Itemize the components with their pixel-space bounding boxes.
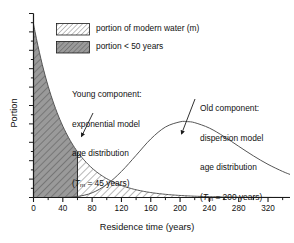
x-tick-label: 320 bbox=[254, 204, 282, 214]
x-tick-label: 160 bbox=[137, 204, 165, 214]
old-component-annotation: Old component: dispersion model age dist… bbox=[200, 84, 263, 223]
young-anno-line-3: age distribution bbox=[72, 149, 142, 159]
chart-figure: Portion Residence time (years) portion o… bbox=[0, 0, 294, 243]
old-anno-value: = 200 years) bbox=[213, 192, 262, 202]
young-anno-line-2: exponential model bbox=[72, 120, 142, 130]
x-axis-title: Residence time (years) bbox=[0, 222, 294, 233]
young-anno-line-4: (Tm = 45 years) bbox=[72, 179, 142, 189]
x-tick-label: 120 bbox=[107, 204, 135, 214]
x-tick-label: 200 bbox=[166, 204, 194, 214]
x-tick-label: 40 bbox=[49, 204, 77, 214]
legend-swatches bbox=[57, 24, 90, 54]
young-component-annotation: Young component: exponential model age d… bbox=[72, 70, 142, 209]
y-axis-title: Portion bbox=[9, 83, 19, 143]
legend-swatch-under50 bbox=[57, 42, 90, 54]
legend-label-under50: portion < 50 years bbox=[96, 42, 163, 52]
old-anno-line-1: Old component: bbox=[200, 104, 263, 114]
old-anno-line-2: dispersion model bbox=[200, 134, 263, 144]
x-tick-label: 240 bbox=[195, 204, 223, 214]
old-anno-line-3: age distribution bbox=[200, 163, 263, 173]
x-tick-label: 80 bbox=[78, 204, 106, 214]
old-annotation-pointer bbox=[182, 99, 196, 134]
young-anno-line-1: Young component: bbox=[72, 90, 142, 100]
legend-label-modern: portion of modern water (m) bbox=[96, 24, 199, 34]
young-anno-value: = 45 years) bbox=[85, 178, 129, 188]
old-anno-line-4: (Tm = 200 years) bbox=[200, 193, 263, 203]
legend-swatch-modern bbox=[57, 24, 90, 36]
x-tick-label: 0 bbox=[20, 204, 48, 214]
x-tick-label: 280 bbox=[225, 204, 253, 214]
